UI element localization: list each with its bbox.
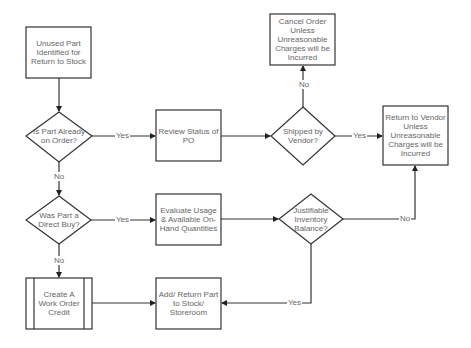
node-wo-credit-label: Create A Work Order Credit xyxy=(36,280,82,327)
node-evaluate-label: Evaluate Usage & Available On-Hand Quant… xyxy=(157,196,220,243)
edge-label-on-order-no: No xyxy=(53,172,65,181)
edge-label-shipped-no: No xyxy=(298,80,310,89)
edge-justifiable-no xyxy=(343,166,415,219)
edge-label-justifiable-no: No xyxy=(399,214,411,223)
node-return-vendor-label: Return to Vendor Unless Unreasonable Cha… xyxy=(385,108,446,163)
node-on-order-label: Is Part Already on Order? xyxy=(30,124,88,148)
edge-justifiable-yes xyxy=(222,244,311,303)
node-review-po-label: Review Status of PO xyxy=(158,112,219,159)
node-direct-buy-label: Was Part a Direct Buy? xyxy=(33,208,85,232)
edge-label-on-order-yes: Yes xyxy=(115,131,130,140)
node-start-label: Unused Part Identified for Return to Sto… xyxy=(28,29,89,76)
edge-label-direct-buy-no: No xyxy=(53,256,65,265)
node-cancel-label: Cancel Order Unless Unreasonable Charges… xyxy=(272,15,333,64)
edge-label-direct-buy-yes: Yes xyxy=(115,215,130,224)
node-justifiable-label: Justifiable Inventory Balance? xyxy=(290,205,332,233)
node-add-return-label: Add/ Return Part to Stock/ Storeroom xyxy=(158,280,219,327)
edge-label-justifiable-yes: Yes xyxy=(287,298,302,307)
node-shipped-label: Shipped by Vendor? xyxy=(279,124,327,148)
edge-label-shipped-yes: Yes xyxy=(352,131,367,140)
